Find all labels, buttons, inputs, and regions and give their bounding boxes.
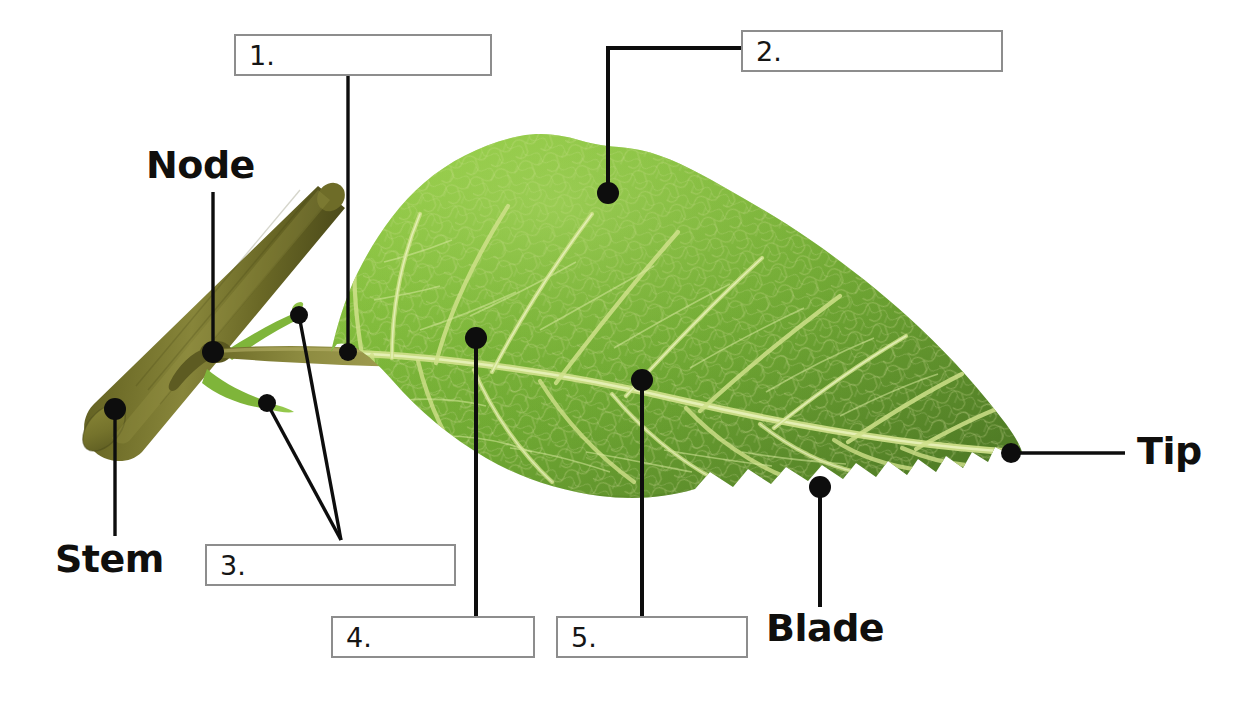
callout-dot-tip: [1001, 443, 1021, 463]
answer-number-4: 4.: [333, 624, 372, 651]
label-stem: Stem: [55, 540, 164, 578]
callout-dot-4: [465, 327, 487, 349]
leader-3a: [299, 315, 341, 540]
leader-2: [608, 48, 741, 193]
leaf-diagram-page: 1. 2. 3. 4. 5. Node Stem Tip Blade: [0, 0, 1248, 710]
callout-dot-stem: [104, 398, 126, 420]
answer-box-1[interactable]: 1.: [234, 34, 492, 76]
callout-dot-5: [631, 369, 653, 391]
callout-dot-1: [339, 343, 357, 361]
label-node: Node: [146, 146, 255, 184]
answer-number-5: 5.: [558, 624, 597, 651]
callout-dot-2: [597, 182, 619, 204]
answer-number-1: 1.: [236, 42, 275, 69]
answer-number-2: 2.: [743, 38, 782, 65]
label-tip: Tip: [1137, 432, 1202, 470]
callout-dot-3b: [258, 394, 276, 412]
answer-box-3[interactable]: 3.: [205, 544, 456, 586]
label-blade: Blade: [766, 609, 884, 647]
callout-dot-3a: [290, 306, 308, 324]
callout-leaders: [0, 0, 1248, 710]
answer-box-2[interactable]: 2.: [741, 30, 1003, 72]
answer-box-5[interactable]: 5.: [556, 616, 748, 658]
answer-box-4[interactable]: 4.: [331, 616, 535, 658]
answer-number-3: 3.: [207, 552, 246, 579]
callout-dot-blade: [809, 476, 831, 498]
callout-dot-node: [202, 341, 224, 363]
